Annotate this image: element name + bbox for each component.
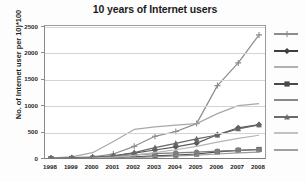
y-tick-label: 500 [14,128,38,135]
legend-swatch [274,99,298,101]
data-point-marker [194,149,199,154]
y-tick-mark [41,26,44,27]
gridline [45,27,265,28]
y-tick-mark [41,132,44,133]
y-tick-mark [41,158,44,159]
legend-row[interactable] [272,28,304,40]
legend-swatch [274,149,298,151]
legend-row[interactable] [272,94,304,106]
legend-swatch [274,66,298,68]
data-point-marker [131,143,137,149]
data-point-marker [173,129,179,135]
y-tick-label: 1000 [14,102,38,109]
y-tick-label: 0 [14,155,38,162]
plot-area [44,25,266,159]
data-point-marker [236,148,241,153]
data-point-marker [152,133,158,139]
y-tick-mark [41,79,44,80]
y-tick-label: 2500 [14,23,38,30]
data-point-marker [215,148,220,153]
legend-marker-square-icon [283,80,290,87]
y-tick-label: 1500 [14,75,38,82]
gridline [45,80,265,81]
y-tick-mark [41,105,44,106]
legend-row[interactable] [272,127,304,139]
legend-marker-triangle-icon [283,113,290,120]
legend-swatch [274,132,298,134]
chart-container: 10 years of Internet users No. of Intern… [0,0,306,182]
legend-marker-plus-icon [283,30,290,37]
gridline [45,53,265,54]
legend-row[interactable] [272,78,304,90]
legend-row[interactable] [272,45,304,57]
y-tick-label: 2000 [14,49,38,56]
legend-marker-diamond-icon [283,47,290,54]
y-axis-title: No. of Internet user per 10)*100 [14,0,23,130]
gridline [45,106,265,107]
gridline [45,133,265,134]
legend-row[interactable] [272,61,304,73]
y-tick-mark [41,52,44,53]
x-tick-label: 2008 [245,163,271,170]
data-point-marker [173,150,178,155]
chart-title: 10 years of Internet users [45,3,265,15]
chart-legend [272,28,304,160]
legend-row[interactable] [272,144,304,156]
legend-row[interactable] [272,111,304,123]
series-lines-svg [45,26,266,159]
